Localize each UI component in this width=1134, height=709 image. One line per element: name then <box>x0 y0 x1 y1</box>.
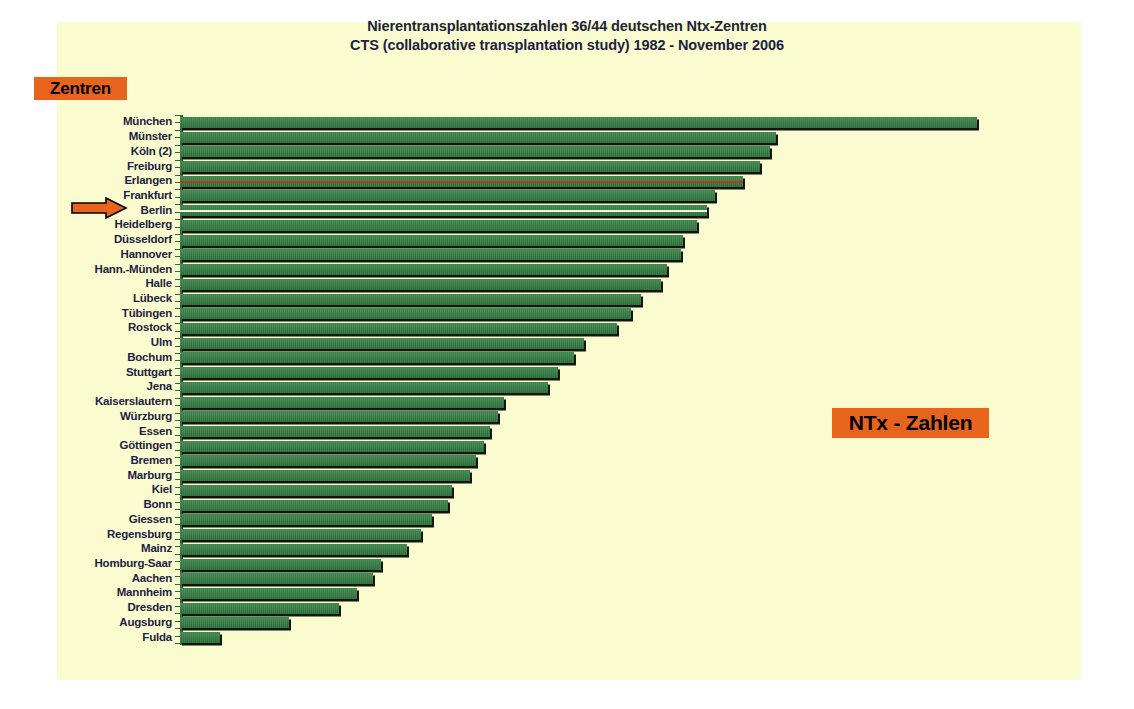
bar-label: Jena <box>147 382 172 394</box>
bar-row: Erlangen <box>180 174 1005 189</box>
bar <box>180 500 448 511</box>
bar-label: Frankfurt <box>123 190 172 202</box>
bar-label: Erlangen <box>124 175 172 187</box>
bar-highlight-line-red <box>180 181 743 183</box>
bar-row: Essen <box>180 424 1005 439</box>
bar <box>180 146 770 157</box>
bar-row: Augsburg <box>180 616 1005 631</box>
bar <box>180 470 470 481</box>
bar <box>180 632 220 643</box>
bar-row: Giessen <box>180 513 1005 528</box>
bar-row: Ulm <box>180 336 1005 351</box>
bar-label: Stuttgart <box>126 367 172 379</box>
plot-area: MünchenMünsterKöln (2)FreiburgErlangenFr… <box>180 115 1005 645</box>
bar-label: Tübingen <box>122 308 172 320</box>
bar-label: München <box>123 117 172 129</box>
bar-row: Tübingen <box>180 306 1005 321</box>
bar-row: Göttingen <box>180 439 1005 454</box>
bar <box>180 544 407 555</box>
bar <box>180 426 490 437</box>
bar <box>180 176 743 187</box>
bar-label: Münster <box>129 131 172 143</box>
bar-row: Heidelberg <box>180 218 1005 233</box>
bar <box>180 249 681 260</box>
axis-label-badge-zentren: Zentren <box>34 77 127 100</box>
bar-label: Würzburg <box>120 411 172 423</box>
bar <box>180 514 432 525</box>
bar-label: Berlin <box>141 205 172 217</box>
title-line-1: Nierentransplantationszahlen 36/44 deuts… <box>0 17 1134 36</box>
bar <box>180 205 707 216</box>
bar-row: Stuttgart <box>180 365 1005 380</box>
bar-row: Frankfurt <box>180 189 1005 204</box>
bar-row: Fulda <box>180 630 1005 645</box>
bar-row: Jena <box>180 380 1005 395</box>
bar-label: Giessen <box>129 514 172 526</box>
bar-row: Regensburg <box>180 527 1005 542</box>
bar-label: Bochum <box>127 352 172 364</box>
bar-highlight-line-white <box>180 210 707 212</box>
bar <box>180 603 339 614</box>
bar-label: Kiel <box>152 485 172 497</box>
bar <box>180 308 631 319</box>
bar <box>180 161 760 172</box>
bar-row: Düsseldorf <box>180 233 1005 248</box>
bar-row: Dresden <box>180 601 1005 616</box>
bar-label: Kaiserslautern <box>95 396 172 408</box>
chart-page: Nierentransplantationszahlen 36/44 deuts… <box>0 0 1134 709</box>
bar-row: Aachen <box>180 571 1005 586</box>
bar-row: Freiburg <box>180 159 1005 174</box>
bar <box>180 485 452 496</box>
bar-row: Münster <box>180 130 1005 145</box>
bar-row: Rostock <box>180 321 1005 336</box>
bar-row: Lübeck <box>180 292 1005 307</box>
bar-label: Hann.-Münden <box>95 264 172 276</box>
chart-title: Nierentransplantationszahlen 36/44 deuts… <box>0 17 1134 55</box>
bar-row: Würzburg <box>180 409 1005 424</box>
bar-label: Mainz <box>141 544 172 556</box>
bar-label: Mannheim <box>117 588 172 600</box>
bar-label: Bonn <box>143 499 172 511</box>
bar-label: Rostock <box>128 323 172 335</box>
bar-row: Mannheim <box>180 586 1005 601</box>
bar-label: Bremen <box>130 455 172 467</box>
bar-row: Bremen <box>180 454 1005 469</box>
bar-label: Freiburg <box>127 161 172 173</box>
bar <box>180 411 498 422</box>
bar-label: Essen <box>139 426 172 438</box>
bar-row: Köln (2) <box>180 144 1005 159</box>
bar-label: Homburg-Saar <box>95 558 172 570</box>
bar <box>180 352 574 363</box>
bar-row: Marburg <box>180 468 1005 483</box>
bar-label: Dresden <box>127 602 172 614</box>
bar-row: München <box>180 115 1005 130</box>
bar <box>180 294 641 305</box>
bar-label: Halle <box>146 279 173 291</box>
bar <box>180 382 548 393</box>
bar-label: Düsseldorf <box>114 234 172 246</box>
bar-row: Halle <box>180 277 1005 292</box>
bar <box>180 441 484 452</box>
bar-label: Ulm <box>151 337 172 349</box>
bar <box>180 617 289 628</box>
bar-row: Mainz <box>180 542 1005 557</box>
bar-row: Homburg-Saar <box>180 557 1005 572</box>
bar <box>180 235 683 246</box>
bar-label: Heidelberg <box>115 220 172 232</box>
bar-label: Aachen <box>132 573 172 585</box>
bar-row: Hannover <box>180 248 1005 263</box>
bar-row: Kaiserslautern <box>180 395 1005 410</box>
bar <box>180 397 504 408</box>
bar <box>180 220 697 231</box>
right-arrow-icon <box>70 197 128 219</box>
bar <box>180 190 715 201</box>
bar-label: Göttingen <box>120 440 173 452</box>
bar <box>180 367 558 378</box>
bar <box>180 279 661 290</box>
bar-row: Hann.-Münden <box>180 262 1005 277</box>
bar-row: Kiel <box>180 483 1005 498</box>
bar-label: Regensburg <box>107 529 172 541</box>
title-line-2: CTS (collaborative transplantation study… <box>0 36 1134 55</box>
bar-row: Berlin <box>180 203 1005 218</box>
bar <box>180 529 421 540</box>
